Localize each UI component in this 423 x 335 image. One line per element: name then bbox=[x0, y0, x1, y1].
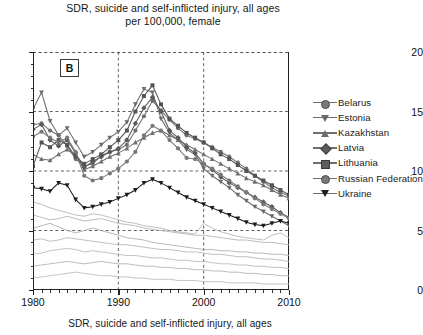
y-tick bbox=[29, 171, 33, 172]
legend-marker-circle-icon bbox=[312, 172, 338, 185]
legend-label: Lithuania bbox=[338, 157, 378, 168]
x-tick bbox=[118, 290, 119, 295]
x-minor-tick bbox=[212, 290, 213, 293]
x-tick-label: 1990 bbox=[96, 297, 140, 307]
x-minor-tick bbox=[280, 290, 281, 293]
x-minor-tick bbox=[263, 290, 264, 293]
chart-legend: BelarusEstoniaKazakhstanLatviaLithuaniaR… bbox=[312, 95, 423, 201]
legend-marker-triangle-up-icon bbox=[312, 126, 338, 139]
x-minor-tick bbox=[246, 290, 247, 293]
x-minor-tick bbox=[161, 290, 162, 293]
x-minor-tick bbox=[101, 290, 102, 293]
y-tick-label: 20 bbox=[397, 47, 423, 57]
legend-label: Kazakhstan bbox=[338, 127, 389, 138]
plot-frame bbox=[33, 52, 289, 290]
legend-marker-triangle-down-icon bbox=[312, 111, 338, 124]
panel-label-b: B bbox=[60, 59, 79, 77]
chart-figure: SDR, suicide and self-inflicted injury, … bbox=[0, 0, 423, 335]
x-minor-tick bbox=[110, 290, 111, 293]
x-minor-tick bbox=[42, 290, 43, 293]
x-minor-tick bbox=[127, 290, 128, 293]
y-minor-tick bbox=[31, 266, 34, 267]
x-tick bbox=[289, 290, 290, 295]
legend-marker-triangle-down-filled-icon bbox=[312, 187, 338, 200]
x-minor-tick bbox=[144, 290, 145, 293]
x-minor-tick bbox=[221, 290, 222, 293]
x-minor-tick bbox=[50, 290, 51, 293]
legend-item-estonia[interactable]: Estonia bbox=[312, 110, 423, 125]
y-minor-tick bbox=[31, 254, 34, 255]
y-tick-label: 5 bbox=[397, 226, 423, 236]
x-minor-tick bbox=[67, 290, 68, 293]
y-minor-tick bbox=[31, 88, 34, 89]
x-minor-tick bbox=[59, 290, 60, 293]
legend-label: Estonia bbox=[338, 112, 371, 123]
x-minor-tick bbox=[76, 290, 77, 293]
y-minor-tick bbox=[31, 76, 34, 77]
x-tick bbox=[33, 290, 34, 295]
y-tick-label: 0 bbox=[397, 285, 423, 295]
legend-marker-diamond-icon bbox=[312, 141, 338, 154]
x-minor-tick bbox=[229, 290, 230, 293]
y-minor-tick bbox=[31, 64, 34, 65]
legend-item-lithuania[interactable]: Lithuania bbox=[312, 155, 423, 170]
y-minor-tick bbox=[31, 183, 34, 184]
legend-marker-circle-icon bbox=[312, 96, 338, 109]
x-minor-tick bbox=[238, 290, 239, 293]
chart-title-line-2: per 100,000, female bbox=[0, 15, 346, 28]
legend-label: Russian Federation bbox=[338, 173, 423, 184]
x-minor-tick bbox=[255, 290, 256, 293]
y-minor-tick bbox=[31, 278, 34, 279]
x-minor-tick bbox=[152, 290, 153, 293]
y-minor-tick bbox=[31, 207, 34, 208]
y-tick bbox=[29, 112, 33, 113]
legend-label: Latvia bbox=[338, 142, 364, 153]
y-minor-tick bbox=[31, 147, 34, 148]
legend-marker-square-icon bbox=[312, 156, 338, 169]
x-minor-tick bbox=[178, 290, 179, 293]
legend-label: Ukraine bbox=[338, 188, 372, 199]
legend-label: Belarus bbox=[338, 97, 371, 108]
legend-item-kazakhstan[interactable]: Kazakhstan bbox=[312, 125, 423, 140]
legend-item-belarus[interactable]: Belarus bbox=[312, 95, 423, 110]
x-tick-label: 2010 bbox=[267, 297, 311, 307]
y-tick bbox=[29, 231, 33, 232]
x-minor-tick bbox=[84, 290, 85, 293]
bottom-caption: SDR, suicide and self-inflicted injury, … bbox=[0, 318, 340, 331]
y-minor-tick bbox=[31, 219, 34, 220]
y-minor-tick bbox=[31, 135, 34, 136]
x-tick bbox=[204, 290, 205, 295]
y-tick bbox=[29, 52, 33, 53]
x-tick-label: 2000 bbox=[182, 297, 226, 307]
x-minor-tick bbox=[93, 290, 94, 293]
y-minor-tick bbox=[31, 159, 34, 160]
legend-item-latvia[interactable]: Latvia bbox=[312, 140, 423, 155]
x-minor-tick bbox=[195, 290, 196, 293]
y-minor-tick bbox=[31, 100, 34, 101]
y-minor-tick bbox=[31, 195, 34, 196]
legend-item-russian-federation[interactable]: Russian Federation bbox=[312, 170, 423, 185]
y-minor-tick bbox=[31, 123, 34, 124]
x-tick-label: 1980 bbox=[11, 297, 55, 307]
legend-item-ukraine[interactable]: Ukraine bbox=[312, 186, 423, 201]
plot-area: B bbox=[33, 52, 289, 290]
x-minor-tick bbox=[170, 290, 171, 293]
x-minor-tick bbox=[135, 290, 136, 293]
x-minor-tick bbox=[187, 290, 188, 293]
y-minor-tick bbox=[31, 242, 34, 243]
x-minor-tick bbox=[272, 290, 273, 293]
chart-title-line-1: SDR, suicide and self-inflicted injury, … bbox=[0, 2, 346, 15]
